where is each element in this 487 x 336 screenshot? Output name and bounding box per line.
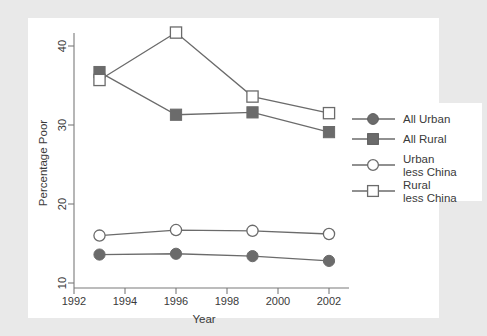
data-point-marker [247,107,258,118]
legend-label: Urban [403,153,434,165]
series-line [100,72,330,132]
series-all-urban [94,248,335,266]
data-point-marker [247,225,258,236]
x-tick-label: 1998 [215,295,239,307]
data-point-marker [170,224,181,235]
x-tick-label: 2002 [317,295,341,307]
x-tick-label: 1994 [113,295,137,307]
y-axis-title: Percentage Poor [37,120,49,206]
legend-label-line2: less China [403,166,457,178]
open-circle-icon [368,160,379,171]
x-axis-title: Year [192,313,215,325]
series-all-rural [94,66,335,137]
legend: All Urban All Rural Urban less China Rur… [345,103,482,204]
data-point-marker [323,228,334,239]
y-tick-label: 30 [56,119,68,131]
series-layer [94,27,335,267]
series-urban-less-china [94,224,335,241]
legend-label-line2: less China [403,192,457,204]
x-axis-ticks [74,288,329,294]
x-tick-label: 1992 [62,295,86,307]
legend-label: All Urban [403,113,450,125]
open-square-icon [368,186,379,197]
x-tick-label: 1996 [164,295,188,307]
y-tick-label: 10 [56,277,68,289]
data-point-marker [323,255,334,266]
filled-circle-icon [368,114,379,125]
series-line [100,33,330,114]
x-tick-label: 2000 [266,295,290,307]
y-tick-label: 40 [56,40,68,52]
chart-figure: 40 30 20 10 Percentage Poor 1992 1994 19… [0,0,487,336]
data-point-marker [247,91,258,102]
filled-square-icon [368,134,379,145]
series-line [100,230,330,236]
axis-lines [74,33,349,288]
line-chart: 40 30 20 10 Percentage Poor 1992 1994 19… [0,0,487,336]
data-point-marker [170,109,181,120]
series-line [100,254,330,261]
data-point-marker [323,127,334,138]
y-tick-label: 20 [56,198,68,210]
legend-label: All Rural [403,133,446,145]
series-rural-less-china [94,27,335,119]
x-axis-tick-labels: 1992 1994 1996 1998 2000 2002 [62,295,341,307]
legend-label: Rural [403,179,430,191]
y-axis-ticks [68,46,74,283]
data-point-marker [94,230,105,241]
data-point-marker [170,248,181,259]
y-axis-tick-labels: 40 30 20 10 [56,40,68,289]
data-point-marker [323,108,334,119]
data-point-marker [94,74,105,85]
data-point-marker [247,251,258,262]
data-point-marker [170,27,181,38]
data-point-marker [94,249,105,260]
